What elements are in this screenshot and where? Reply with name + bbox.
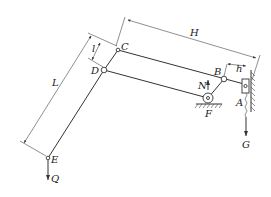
label-D: D [90, 65, 99, 76]
label-L: L [51, 77, 59, 88]
label-E: E [50, 154, 59, 165]
pin-B [221, 76, 227, 82]
label-Q: Q [51, 173, 59, 184]
label-h: h [236, 63, 242, 74]
link-CD [104, 50, 118, 70]
cable-A [245, 93, 247, 117]
label-H: H [189, 27, 199, 38]
label-C: C [121, 41, 129, 52]
mechanism-diagram: H L l h C D B N A F G E Q [0, 0, 271, 197]
label-A: A [235, 97, 243, 108]
label-N: N [197, 80, 208, 91]
dimension-L-line [24, 36, 91, 143]
label-F: F [204, 108, 213, 119]
pin-E [46, 156, 50, 160]
pin-C [116, 48, 120, 52]
label-B: B [213, 66, 221, 77]
link-DF [104, 70, 208, 98]
label-G: G [242, 139, 250, 150]
pin-D [101, 67, 107, 73]
label-l: l [92, 43, 95, 54]
dimension-H-line [128, 20, 256, 58]
